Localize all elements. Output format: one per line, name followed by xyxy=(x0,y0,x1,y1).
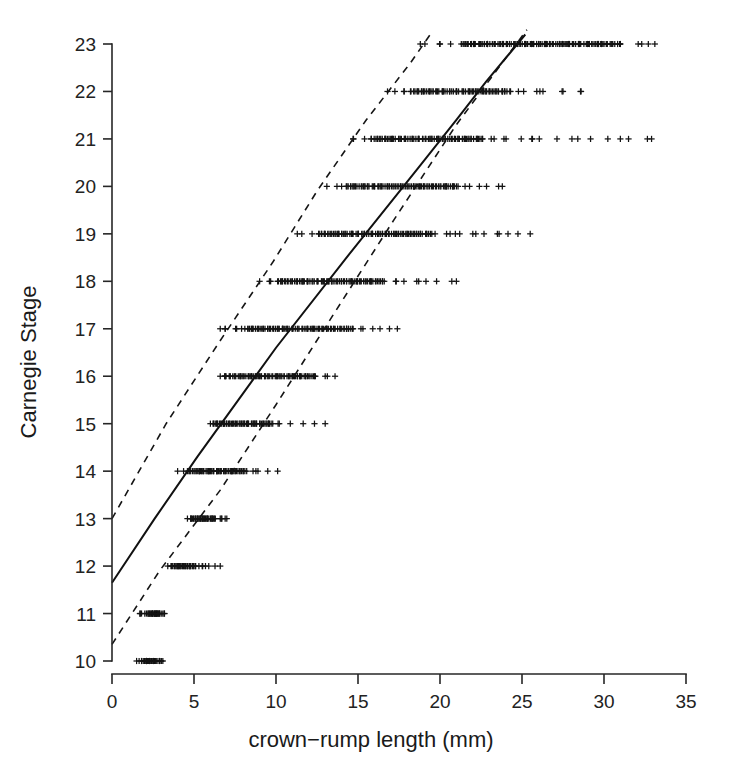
y-tick-label: 16 xyxy=(75,366,96,387)
y-tick-label: 12 xyxy=(75,556,96,577)
y-axis-title: Carnegie Stage xyxy=(16,286,41,439)
y-tick-label: 14 xyxy=(75,461,97,482)
x-tick-label: 25 xyxy=(511,691,532,712)
x-tick-label: 15 xyxy=(347,691,368,712)
y-tick-label: 15 xyxy=(75,414,96,435)
y-tick-label: 13 xyxy=(75,509,96,530)
x-tick-label: 35 xyxy=(675,691,696,712)
y-tick-label: 19 xyxy=(75,224,96,245)
x-tick-label: 0 xyxy=(107,691,118,712)
scatter-plot-canvas: 1011121314151617181920212223 05101520253… xyxy=(0,0,730,775)
x-tick-label: 30 xyxy=(593,691,614,712)
y-tick-label: 10 xyxy=(75,651,96,672)
stage-row-11 xyxy=(137,610,168,616)
y-tick-label: 20 xyxy=(75,176,96,197)
y-tick-label: 11 xyxy=(76,604,96,625)
y-tick-label: 23 xyxy=(75,34,96,55)
y-tick-label: 22 xyxy=(75,81,96,102)
y-tick-label: 18 xyxy=(75,271,96,292)
x-tick-label: 10 xyxy=(265,691,286,712)
figure-root: 1011121314151617181920212223 05101520253… xyxy=(0,0,730,775)
x-tick-label: 20 xyxy=(429,691,450,712)
x-axis-title: crown−rump length (mm) xyxy=(248,727,493,752)
x-tick-label: 5 xyxy=(189,691,200,712)
y-tick-label: 17 xyxy=(75,319,96,340)
y-tick-label: 21 xyxy=(75,129,96,150)
plot-background xyxy=(0,0,730,775)
